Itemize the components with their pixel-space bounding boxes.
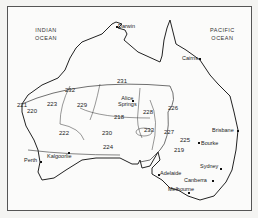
- region-232: 232: [65, 87, 75, 93]
- region-225: 225: [180, 137, 190, 143]
- region-226: 226: [168, 105, 178, 111]
- city-perth: Perth: [24, 158, 37, 164]
- city-bourke: Bourke: [201, 141, 218, 147]
- city-cairns: Cairns: [182, 56, 198, 62]
- city-alice-springs: AliceSprings: [118, 96, 137, 107]
- region-223: 223: [47, 101, 57, 107]
- region-228: 228: [143, 109, 153, 115]
- region-227: 227: [164, 129, 174, 135]
- city-melbourne: Melbourne: [168, 187, 194, 193]
- region-233: 233: [144, 127, 154, 133]
- region-230: 230: [102, 130, 112, 136]
- region-229: 229: [77, 102, 87, 108]
- city-adelaide: Adelaide: [160, 171, 181, 177]
- city-sydney: Sydney: [200, 164, 218, 170]
- region-218: 218: [114, 114, 124, 120]
- region-219: 219: [174, 147, 184, 153]
- city-kalgoorlie: Kalgoorlie: [47, 154, 71, 160]
- region-231: 231: [117, 78, 127, 84]
- region-222: 222: [59, 130, 69, 136]
- indian-ocean-label: INDIANOCEAN: [35, 28, 57, 41]
- region-220: 220: [27, 108, 37, 114]
- pacific-ocean-label: PACIFICOCEAN: [210, 28, 235, 41]
- city-brisbane: Brisbane: [212, 128, 234, 134]
- city-canberra: Canberra: [184, 178, 207, 184]
- city-darwin: Darwin: [118, 24, 135, 30]
- region-224: 224: [103, 144, 113, 150]
- region-221: 221: [17, 102, 27, 108]
